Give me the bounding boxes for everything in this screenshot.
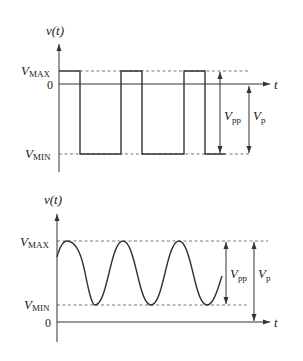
x-axis-label: t (274, 315, 278, 330)
vpp-label: Vpp (224, 108, 241, 125)
vpp-label: Vpp (230, 266, 247, 283)
sine-wave-plot: v(t) t VMAX VMIN 0 Vpp Vp (20, 192, 278, 342)
vmin-label: VMIN (24, 297, 50, 313)
zero-label: 0 (45, 316, 51, 330)
y-axis-label: v(t) (46, 23, 64, 38)
vp-label: Vp (253, 108, 266, 125)
vmax-label: VMAX (20, 234, 49, 250)
vmin-label: VMIN (25, 146, 51, 162)
zero-label: 0 (47, 78, 53, 92)
square-wave-plot: v(t) t VMAX 0 VMIN Vpp Vp (21, 23, 278, 172)
square-waveform (59, 71, 225, 154)
y-axis-label: v(t) (44, 192, 62, 207)
sine-waveform (57, 241, 222, 305)
waveform-diagram: v(t) t VMAX 0 VMIN Vpp Vp v(t) t VMAX VM… (0, 0, 303, 361)
x-axis-label: t (274, 77, 278, 92)
vmax-label: VMAX (21, 63, 50, 79)
vp-label: Vp (258, 266, 271, 283)
